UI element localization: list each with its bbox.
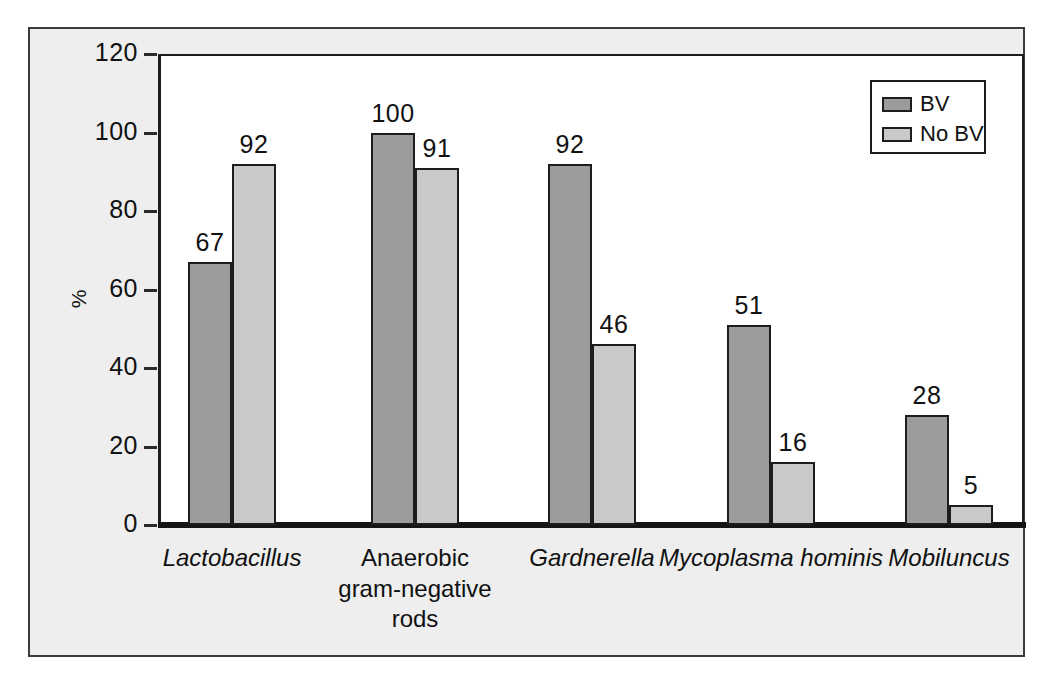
y-tick-mark (144, 289, 157, 292)
y-tick-label: 40 (38, 352, 138, 381)
bar (592, 344, 636, 525)
y-tick-mark (144, 524, 157, 527)
bar-value-label: 51 (709, 291, 789, 320)
y-tick-mark (144, 132, 157, 135)
bar-value-label: 100 (353, 99, 433, 128)
y-tick-mark (144, 367, 157, 370)
bar (188, 262, 232, 525)
bar-value-label: 92 (214, 130, 294, 159)
bar-value-label: 16 (753, 428, 833, 457)
bar-value-label: 92 (530, 130, 610, 159)
bar (905, 415, 949, 525)
bar (548, 164, 592, 525)
legend[interactable]: BVNo BV (870, 80, 986, 154)
y-tick-label: 60 (38, 274, 138, 303)
y-tick-mark (144, 210, 157, 213)
bar-value-label: 28 (887, 381, 967, 410)
y-tick-label: 0 (38, 509, 138, 538)
legend-label: BV (920, 93, 949, 115)
bar (727, 325, 771, 525)
bar-value-label: 46 (574, 310, 654, 339)
y-tick-label: 80 (38, 195, 138, 224)
bar (371, 133, 415, 526)
figure-panel: % 020406080100120 67921009192465116285 L… (28, 27, 1025, 657)
legend-swatch-icon (882, 127, 912, 142)
bar (949, 505, 993, 525)
bar-value-label: 5 (931, 471, 1011, 500)
legend-item-nobv[interactable]: No BV (882, 123, 984, 145)
y-tick-label: 100 (38, 117, 138, 146)
y-tick-label: 120 (38, 38, 138, 67)
legend-item-bv[interactable]: BV (882, 93, 949, 115)
bar-value-label: 91 (397, 134, 477, 163)
category-label: Mobiluncus (824, 543, 1059, 574)
legend-label: No BV (920, 123, 984, 145)
y-tick-label: 20 (38, 431, 138, 460)
y-tick-mark (144, 446, 157, 449)
legend-swatch-icon (882, 97, 912, 112)
bar (771, 462, 815, 525)
bar (232, 164, 276, 525)
bar (415, 168, 459, 525)
y-tick-mark (144, 53, 157, 56)
